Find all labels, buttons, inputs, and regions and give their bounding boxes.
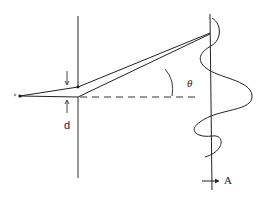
ray-source-lower — [20, 96, 78, 97]
slit-separation-label: d — [64, 120, 70, 131]
angle-label: θ — [187, 78, 192, 89]
intensity-wave — [194, 18, 252, 157]
screen-axis — [210, 14, 212, 190]
source-marker — [14, 94, 17, 97]
diagram-canvas — [0, 0, 264, 198]
point-a-arrowhead — [215, 179, 219, 183]
angle-arc — [165, 69, 173, 96]
ray-source-upper — [20, 87, 78, 96]
point-a-label: A — [224, 175, 232, 186]
